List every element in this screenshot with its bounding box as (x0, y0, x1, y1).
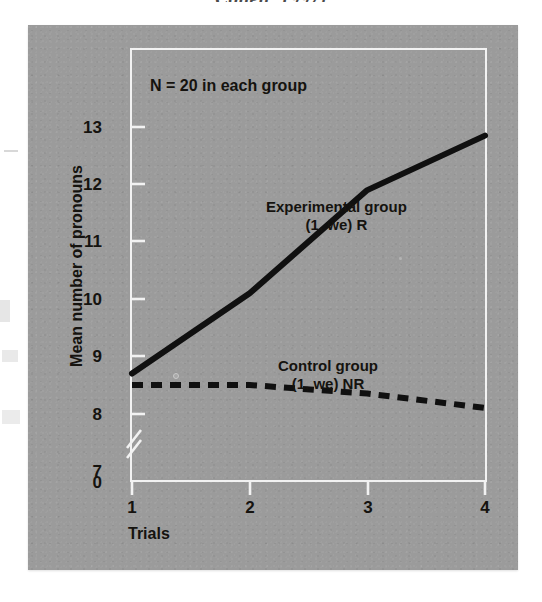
figure-panel: 13 12 11 10 9 8 7 0 1 2 3 4 Mean number … (28, 25, 518, 570)
x-tick-4: 4 (472, 499, 498, 516)
y-axis-title: Mean number of pronouns (68, 151, 86, 381)
x-tick-3: 3 (355, 499, 381, 516)
page-margin-mark (2, 350, 18, 362)
series-label-control-line1: Control group (278, 357, 378, 374)
series-label-control-line2: (1, we) NR (278, 375, 378, 393)
x-tick-1: 1 (119, 499, 145, 516)
page-margin-mark (2, 410, 20, 424)
paper-speck (399, 257, 402, 260)
series-label-experimental-line1: Experimental group (266, 198, 407, 215)
y-axis-break-icon (127, 430, 141, 458)
y-tick-8: 8 (76, 406, 102, 423)
series-experimental-line (132, 136, 485, 374)
top-caption: Cohen, 1997) (0, 0, 542, 2)
paper-speck (173, 373, 179, 379)
x-axis-title: Trials (128, 525, 170, 543)
y-tick-label: 13 (76, 119, 102, 136)
series-label-experimental: Experimental group (1, we) R (266, 198, 407, 233)
y-tick-0: 0 (76, 474, 102, 491)
page-margin-mark (0, 300, 10, 322)
sample-size-note: N = 20 in each group (150, 77, 307, 96)
x-axis-ticks (132, 482, 485, 495)
series-label-control: Control group (1, we) NR (278, 357, 378, 392)
y-tick-label: 8 (76, 406, 102, 423)
y-tick-label: 0 (76, 474, 102, 491)
y-tick-13: 13 (76, 119, 102, 136)
series-label-experimental-line2: (1, we) R (266, 216, 407, 234)
x-tick-2: 2 (237, 499, 263, 516)
page-margin-mark (4, 150, 18, 152)
